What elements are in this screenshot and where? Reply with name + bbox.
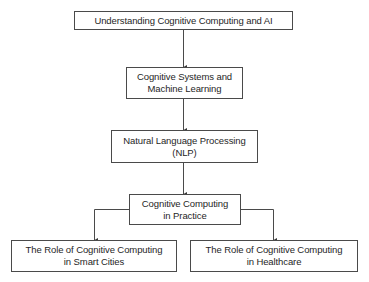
node-label-line1: Cognitive Computing (142, 198, 228, 210)
edge-n4-n5 (95, 210, 130, 241)
node-role-in-healthcare: The Role of Cognitive Computing in Healt… (190, 240, 358, 272)
node-nlp: Natural Language Processing (NLP) (111, 130, 258, 163)
node-label-line2: in Smart Cities (26, 256, 163, 268)
node-cognitive-systems-ml: Cognitive Systems and Machine Learning (126, 67, 243, 99)
node-label-line1: The Role of Cognitive Computing (26, 244, 163, 256)
node-cognitive-computing-in-practice: Cognitive Computing in Practice (129, 194, 241, 225)
node-label-line2: Machine Learning (137, 83, 232, 95)
node-understanding-cognitive-computing: Understanding Cognitive Computing and AI (74, 11, 293, 30)
node-label: Understanding Cognitive Computing and AI (94, 15, 272, 27)
node-label-line2: in Practice (142, 210, 228, 222)
node-label-line1: The Role of Cognitive Computing (206, 244, 343, 256)
node-role-in-smart-cities: The Role of Cognitive Computing in Smart… (11, 240, 177, 272)
edge-n4-n6 (240, 210, 274, 241)
node-label-line2: in Healthcare (206, 256, 343, 268)
flowchart-canvas: Understanding Cognitive Computing and AI… (0, 0, 369, 282)
node-label-line2: (NLP) (123, 147, 245, 159)
node-label-line1: Cognitive Systems and (137, 71, 232, 83)
node-label-line1: Natural Language Processing (123, 135, 245, 147)
